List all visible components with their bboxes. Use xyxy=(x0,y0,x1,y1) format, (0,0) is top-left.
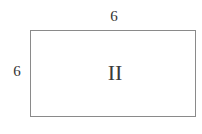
region-label: II xyxy=(100,60,130,86)
side-dimension-label: 6 xyxy=(11,63,23,80)
top-dimension-label: 6 xyxy=(108,8,120,25)
